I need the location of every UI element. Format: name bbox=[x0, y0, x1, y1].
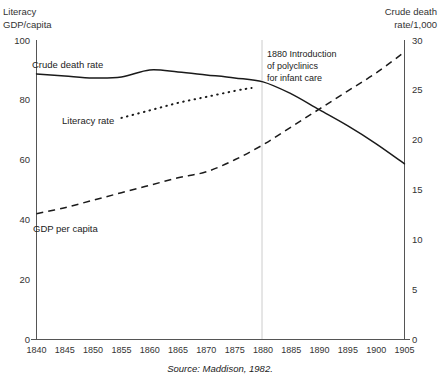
series-label-gdp-per-capita: GDP per capita bbox=[33, 223, 98, 234]
y-axis-tick-labels: 020406080100 bbox=[14, 35, 30, 346]
annotation-line3: for infant care bbox=[267, 73, 322, 83]
annotation-line1: 1880 Introduction bbox=[267, 49, 337, 59]
y-tick-60: 60 bbox=[19, 154, 30, 165]
y2-tick-15: 15 bbox=[412, 184, 423, 195]
y2-tick-10: 10 bbox=[412, 234, 423, 245]
series-paths bbox=[37, 52, 405, 214]
x-tick-1885: 1885 bbox=[281, 345, 301, 355]
y-tick-80: 80 bbox=[19, 94, 30, 105]
annotation-polyclinics: 1880 Introduction of polyclinics for inf… bbox=[267, 49, 337, 83]
x-tick-1845: 1845 bbox=[55, 345, 75, 355]
x-tick-1865: 1865 bbox=[168, 345, 188, 355]
y2-tick-20: 20 bbox=[412, 134, 423, 145]
x-axis-tick-labels: 1840184518501855186018651870187518801885… bbox=[26, 345, 414, 355]
x-tick-1850: 1850 bbox=[83, 345, 103, 355]
x-tick-1890: 1890 bbox=[310, 345, 330, 355]
series-path-literacy-rate bbox=[121, 88, 251, 118]
left-axis-title-line2: GDP/capita bbox=[3, 19, 52, 30]
y-tick-0: 0 bbox=[25, 334, 30, 345]
y-tick-100: 100 bbox=[14, 35, 30, 46]
chart-svg: Literacy GDP/capita Crude death rate/1,0… bbox=[0, 0, 441, 376]
left-axis-title-line1: Literacy bbox=[3, 6, 37, 17]
x-tick-1875: 1875 bbox=[225, 345, 245, 355]
series-label-literacy-rate: Literacy rate bbox=[62, 115, 114, 126]
y-tick-40: 40 bbox=[19, 214, 30, 225]
source-note: Source: Maddison, 1982. bbox=[167, 363, 273, 374]
y2-tick-25: 25 bbox=[412, 84, 423, 95]
x-tick-1905: 1905 bbox=[394, 345, 414, 355]
x-tick-1880: 1880 bbox=[253, 345, 273, 355]
series-label-crude-death-rate: Crude death rate bbox=[32, 59, 103, 70]
axes-frame bbox=[31, 40, 410, 340]
y2-tick-0: 0 bbox=[412, 334, 417, 345]
x-tick-1855: 1855 bbox=[111, 345, 131, 355]
x-tick-1840: 1840 bbox=[26, 345, 46, 355]
y2-tick-30: 30 bbox=[412, 35, 423, 46]
chart-figure: Literacy GDP/capita Crude death rate/1,0… bbox=[0, 0, 441, 376]
y-tick-20: 20 bbox=[19, 274, 30, 285]
x-tick-1900: 1900 bbox=[366, 345, 386, 355]
x-tick-1870: 1870 bbox=[196, 345, 216, 355]
right-axis-title-line2: rate/1,000 bbox=[394, 19, 437, 30]
right-axis-title-line1: Crude death bbox=[385, 6, 437, 17]
y2-tick-5: 5 bbox=[412, 284, 417, 295]
x-tick-1860: 1860 bbox=[140, 345, 160, 355]
x-tick-1895: 1895 bbox=[338, 345, 358, 355]
annotation-line2: of polyclinics bbox=[267, 61, 319, 71]
y2-axis-tick-labels: 051015202530 bbox=[412, 35, 423, 346]
